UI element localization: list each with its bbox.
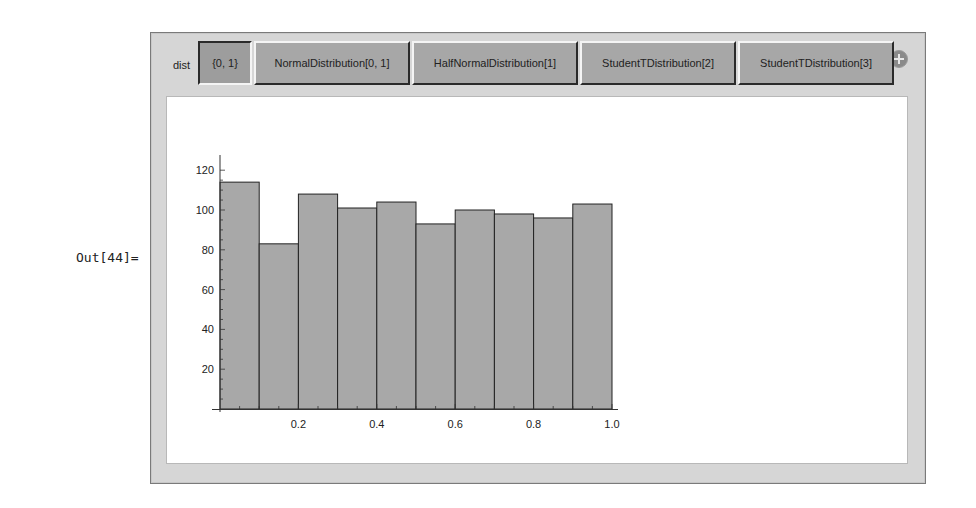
histogram-bar bbox=[298, 194, 337, 409]
y-tick-label: 120 bbox=[196, 164, 214, 176]
x-tick-label: 0.2 bbox=[291, 418, 306, 430]
y-tick-label: 20 bbox=[202, 363, 214, 375]
x-tick-label: 0.8 bbox=[526, 418, 541, 430]
y-tick-label: 80 bbox=[202, 244, 214, 256]
histogram-bar bbox=[455, 210, 494, 409]
y-tick-label: 60 bbox=[202, 284, 214, 296]
histogram-bar bbox=[338, 208, 377, 409]
histogram-bar bbox=[259, 244, 298, 409]
histogram-bar bbox=[534, 218, 573, 409]
y-tick-label: 40 bbox=[202, 323, 214, 335]
histogram-chart: 204060801001200.20.40.60.81.0 bbox=[0, 0, 976, 508]
histogram-bar bbox=[377, 202, 416, 409]
x-tick-label: 1.0 bbox=[604, 418, 619, 430]
x-tick-label: 0.4 bbox=[369, 418, 384, 430]
histogram-bar bbox=[494, 214, 533, 409]
histogram-bars bbox=[220, 182, 612, 409]
histogram-bar bbox=[416, 224, 455, 409]
x-tick-label: 0.6 bbox=[448, 418, 463, 430]
histogram-bar bbox=[573, 204, 612, 409]
histogram-bar bbox=[220, 182, 259, 409]
y-tick-label: 100 bbox=[196, 204, 214, 216]
